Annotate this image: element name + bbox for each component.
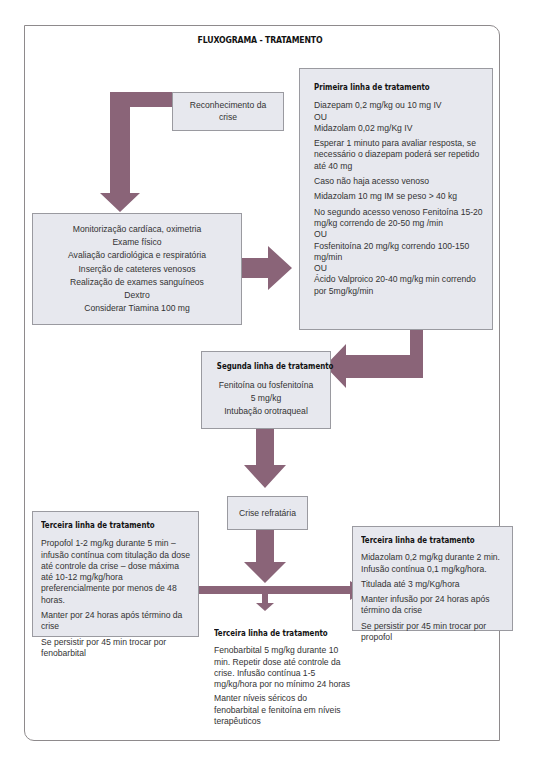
care-item: Exame físico bbox=[37, 236, 237, 249]
initial-care-box: Monitorização cardíaca, oximetria Exame … bbox=[32, 213, 242, 325]
first-line-paragraph: Caso não haja acesso venoso bbox=[314, 176, 484, 187]
first-line-header: Primeira linha de tratamento bbox=[314, 82, 453, 93]
third-line-phenobarbital-header: Terceira linha de tratamento bbox=[214, 628, 329, 639]
propofol-paragraph: Manter por 24 horas após término da cris… bbox=[41, 610, 192, 633]
care-item: Avaliação cardiológica e respiratória bbox=[37, 249, 237, 262]
arrow-care-to-first-line bbox=[242, 246, 292, 290]
arrow-first-to-second-line bbox=[325, 329, 423, 388]
propofol-paragraph: Se persistir por 45 min trocar por fenob… bbox=[41, 637, 192, 660]
third-line-propofol-box: Terceira linha de tratamento Propofol 1-… bbox=[32, 511, 199, 637]
third-line-phenobarbital-block: Terceira linha de tratamento Fenobarbita… bbox=[214, 628, 354, 730]
midazolam-paragraph: Titulada até 3 mg/Kg/hora bbox=[361, 579, 506, 590]
arrow-recognition-to-care bbox=[100, 92, 172, 212]
third-line-midazolam-header: Terceira linha de tratamento bbox=[361, 535, 480, 546]
recognition-line-2: crise bbox=[177, 111, 279, 123]
first-line-paragraph: No segundo acesso venoso Fenitoína 15-20… bbox=[314, 207, 484, 297]
third-line-midazolam-box: Terceira linha de tratamento Midazolam 0… bbox=[352, 526, 513, 631]
first-line-paragraph: Midazolam 10 mg IM se peso > 40 kg bbox=[314, 191, 484, 202]
first-line-paragraph: Diazepam 0,2 mg/kg ou 10 mg IV OU Midazo… bbox=[314, 100, 484, 134]
care-item: Dextro bbox=[37, 289, 237, 302]
recognition-box: Reconhecimento da crise bbox=[172, 92, 284, 131]
refractory-box: Crise refratária bbox=[227, 496, 308, 530]
third-line-propofol-header: Terceira linha de tratamento bbox=[41, 520, 165, 531]
midazolam-paragraph: Manter infusão por 24 horas após término… bbox=[361, 594, 506, 617]
propofol-paragraph: Propofol 1-2 mg/kg durante 5 min – infus… bbox=[41, 538, 192, 606]
arrow-to-phenobarbital bbox=[256, 594, 274, 611]
midazolam-paragraph: Midazolam 0,2 mg/kg durante 2 min. Infus… bbox=[361, 552, 506, 575]
care-item: Realização de exames sanguíneos bbox=[37, 276, 237, 289]
first-line-paragraph: Esperar 1 minuto para avaliar resposta, … bbox=[314, 138, 484, 172]
care-item: Inserção de cateteres venosos bbox=[37, 263, 237, 276]
recognition-line-1: Reconhecimento da bbox=[177, 99, 279, 111]
midazolam-paragraph: Se persistir por 45 min trocar por propo… bbox=[361, 621, 506, 644]
second-line-item: 5 mg/kg bbox=[206, 392, 326, 405]
second-line-header: Segunda linha de tratamento bbox=[217, 360, 315, 373]
phenobarbital-paragraph: Manter níveis séricos do fenobarbital e … bbox=[214, 693, 354, 727]
phenobarbital-paragraph: Fenobarbital 5 mg/kg durante 10 min. Rep… bbox=[214, 645, 354, 690]
second-line-item: Fenitoína ou fosfenitoína bbox=[206, 379, 326, 392]
arrow-second-to-refractory bbox=[244, 428, 286, 488]
first-line-box: Primeira linha de tratamento Diazepam 0,… bbox=[299, 68, 493, 330]
second-line-item: Intubação orotraqueal bbox=[206, 405, 326, 418]
arrow-refractory-down bbox=[244, 530, 286, 583]
care-item: Considerar Tiamina 100 mg bbox=[37, 302, 237, 315]
care-item: Monitorização cardíaca, oximetria bbox=[37, 223, 237, 236]
refractory-label: Crise refratária bbox=[230, 507, 305, 519]
second-line-box: Segunda linha de tratamento Fenitoína ou… bbox=[201, 351, 331, 429]
